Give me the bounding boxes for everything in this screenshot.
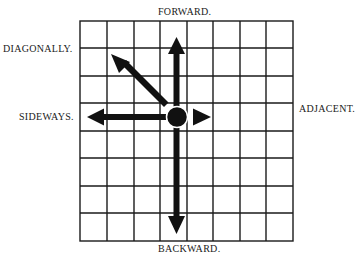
backward-arrow-icon [168,126,185,234]
sideways-arrow-icon [87,109,166,126]
adjacent-arrow-icon [193,109,211,126]
piece-circle-icon [167,107,188,128]
diagonally-label: DIAGONALLY. [3,43,73,54]
movement-diagram [0,0,361,255]
adjacent-label: ADJACENT. [299,103,355,114]
sideways-label: SIDEWAYS. [19,111,74,122]
grid [80,21,293,241]
arrows [87,37,211,234]
forward-label: FORWARD. [158,6,211,17]
backward-label: BACKWARD. [158,243,220,254]
